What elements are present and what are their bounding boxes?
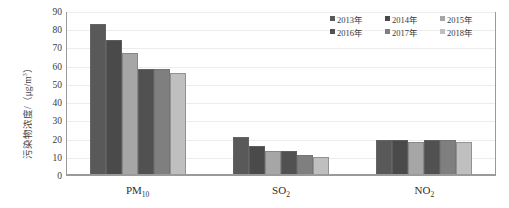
legend-label: 2013年: [337, 13, 363, 25]
legend-label: 2014年: [392, 13, 418, 25]
y-axis-tick-40: 40: [6, 98, 62, 108]
bar-group-PM10: [67, 13, 210, 175]
x-axis-label-PM10: PM10: [66, 180, 209, 204]
y-axis-tick-80: 80: [6, 25, 62, 35]
x-axis-label-SO2: SO2: [209, 180, 352, 204]
bar-NO2-2018年: [456, 142, 472, 175]
bar-PM10-2013年: [90, 24, 106, 175]
y-axis-tick-90: 90: [6, 7, 62, 17]
bar-SO2-2013年: [233, 137, 249, 175]
y-axis-tick-50: 50: [6, 80, 62, 90]
legend-item-2018年[interactable]: 2018年: [440, 25, 495, 38]
legend-swatch-icon: [440, 16, 445, 21]
bar-SO2-2014年: [249, 146, 265, 175]
bar-chart: 污染物浓度/（μg/m3） 0102030405060708090 PM10SO…: [0, 0, 509, 208]
legend-swatch-icon: [330, 29, 335, 34]
bar-SO2-2017年: [297, 155, 313, 175]
legend-item-2013年[interactable]: 2013年: [330, 12, 385, 25]
bar-PM10-2018年: [170, 73, 186, 175]
axis-baseline: [67, 174, 495, 175]
bar-PM10-2016年: [138, 69, 154, 175]
bar-SO2-2018年: [313, 157, 329, 175]
y-axis-tick-labels: 0102030405060708090: [0, 12, 66, 176]
x-axis-label-NO2: NO2: [353, 180, 496, 204]
bar-SO2-2016年: [281, 151, 297, 175]
y-axis-tick-10: 10: [6, 153, 62, 163]
y-axis-tick-70: 70: [6, 43, 62, 53]
y-axis-tick-30: 30: [6, 116, 62, 126]
bar-NO2-2013年: [376, 140, 392, 175]
legend-item-2015年[interactable]: 2015年: [440, 12, 495, 25]
bar-NO2-2017年: [440, 140, 456, 175]
y-axis-tick-0: 0: [6, 171, 62, 181]
legend-swatch-icon: [385, 29, 390, 34]
legend-item-2014年[interactable]: 2014年: [385, 12, 440, 25]
chart-legend: 2013年2014年2015年2016年2017年2018年: [330, 12, 496, 38]
y-axis-tick-20: 20: [6, 135, 62, 145]
bar-NO2-2015年: [408, 142, 424, 175]
legend-item-2017年[interactable]: 2017年: [385, 25, 440, 38]
x-axis-labels: PM10SO2NO2: [66, 180, 496, 204]
legend-label: 2016年: [337, 26, 363, 38]
bar-PM10-2017年: [154, 69, 170, 175]
bar-NO2-2014年: [392, 140, 408, 175]
bar-PM10-2014年: [106, 40, 122, 175]
legend-label: 2017年: [392, 26, 418, 38]
y-axis-tick-60: 60: [6, 62, 62, 72]
bar-SO2-2015年: [265, 151, 281, 175]
legend-swatch-icon: [330, 16, 335, 21]
legend-swatch-icon: [385, 16, 390, 21]
legend-label: 2018年: [447, 26, 473, 38]
legend-swatch-icon: [440, 29, 445, 34]
legend-label: 2015年: [447, 13, 473, 25]
bar-PM10-2015年: [122, 53, 138, 175]
bar-NO2-2016年: [424, 140, 440, 175]
legend-item-2016年[interactable]: 2016年: [330, 25, 385, 38]
